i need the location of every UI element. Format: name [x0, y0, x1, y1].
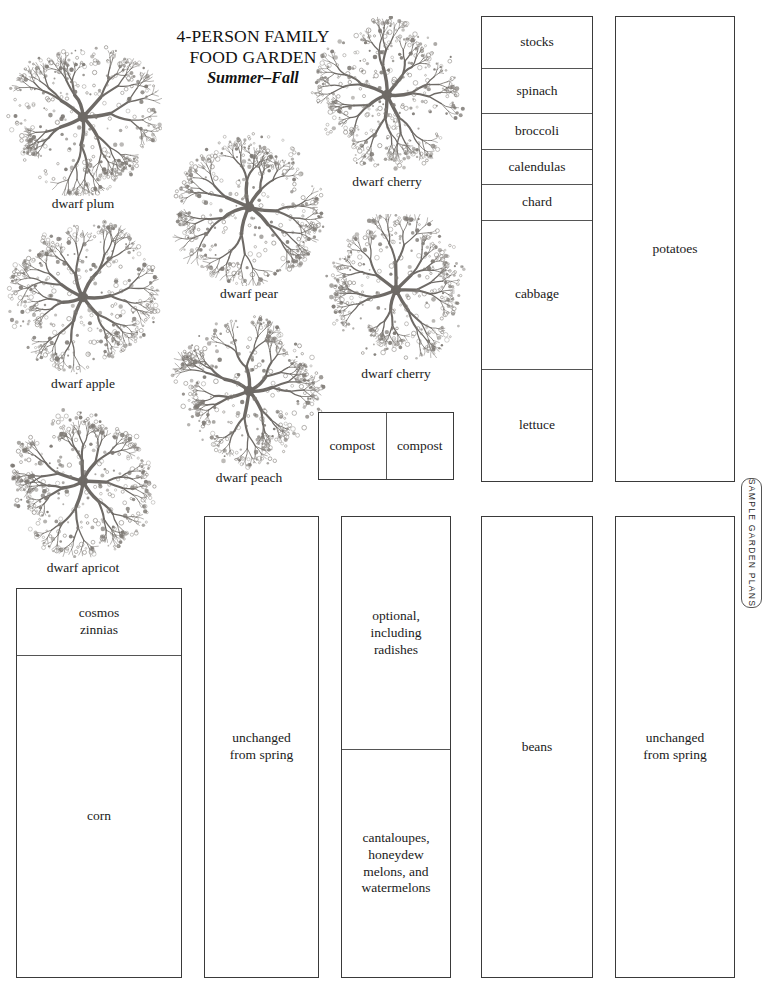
beans-bed: beans	[481, 516, 593, 978]
section-tab-label: SAMPLE GARDEN PLANS	[747, 479, 757, 607]
tree-label: dwarf pear	[170, 286, 328, 302]
bed-section: broccoli	[482, 114, 592, 149]
bed-section-label: lettuce	[519, 417, 555, 434]
bed-section-label: potatoes	[653, 241, 698, 258]
bed-section-label: spinach	[516, 83, 557, 100]
tree-canopy-icon	[4, 218, 162, 376]
tree-label: dwarf apple	[4, 376, 162, 392]
bed-section-label: unchanged from spring	[643, 730, 706, 763]
tree-label: dwarf peach	[170, 470, 328, 486]
bed-section: lettuce	[482, 370, 592, 481]
tree-canopy-icon	[170, 312, 328, 470]
tree-label: dwarf cherry	[308, 174, 466, 190]
bed-section-label: compost	[397, 438, 443, 455]
bed-section-label: beans	[522, 739, 553, 756]
bed-section-label: broccoli	[515, 123, 559, 140]
bed-section-label: corn	[87, 808, 111, 825]
unchanged-spring-bed-left: unchanged from spring	[204, 516, 319, 978]
north-vegetable-bed: stocksspinachbroccolicalendulaschardcabb…	[481, 16, 593, 482]
radishes-and-melons-bed: optional, including radishescantaloupes,…	[341, 516, 451, 978]
bed-section: compost	[319, 413, 387, 479]
bed-section: compost	[387, 413, 454, 479]
bed-section: unchanged from spring	[616, 517, 734, 977]
bed-section: potatoes	[616, 17, 734, 481]
bed-section: stocks	[482, 17, 592, 69]
bed-section-label: cantaloupes, honeydew melons, and waterm…	[362, 830, 431, 897]
unchanged-spring-bed-right: unchanged from spring	[615, 516, 735, 978]
bed-section: corn	[17, 656, 181, 978]
bed-section-label: chard	[522, 194, 552, 211]
bed-section-label: stocks	[520, 34, 554, 51]
tree-label: dwarf apricot	[4, 560, 162, 576]
tree-illustration: dwarf cherry	[308, 16, 466, 174]
potatoes-bed: potatoes	[615, 16, 735, 482]
tree-canopy-icon	[308, 16, 466, 174]
tree-canopy-icon	[320, 214, 472, 366]
tree-illustration: dwarf peach	[170, 312, 328, 470]
bed-section: optional, including radishes	[342, 517, 450, 750]
bed-section-label: cabbage	[515, 286, 559, 303]
bed-section-label: unchanged from spring	[230, 730, 293, 763]
tree-label: dwarf plum	[4, 196, 162, 212]
tree-illustration: dwarf apricot	[4, 402, 162, 560]
tree-canopy-icon	[4, 38, 162, 196]
tree-illustration: dwarf apple	[4, 218, 162, 376]
bed-section: calendulas	[482, 150, 592, 185]
bed-section: spinach	[482, 69, 592, 114]
bed-section-label: calendulas	[509, 159, 566, 176]
bed-section: cosmos zinnias	[17, 589, 181, 656]
tree-illustration: dwarf plum	[4, 38, 162, 196]
tree-canopy-icon	[4, 402, 162, 560]
tree-illustration: dwarf pear	[170, 128, 328, 286]
tree-canopy-icon	[170, 128, 328, 286]
compost-bins: compostcompost	[318, 412, 454, 480]
bed-section: cabbage	[482, 221, 592, 370]
section-tab: SAMPLE GARDEN PLANS	[741, 478, 762, 608]
tree-illustration: dwarf cherry	[320, 214, 472, 366]
flowers-and-corn-bed: cosmos zinniascorn	[16, 588, 182, 978]
garden-plan-page: 4-PERSON FAMILY FOOD GARDEN Summer–Fall …	[0, 0, 772, 993]
bed-section-label: cosmos zinnias	[79, 605, 120, 638]
bed-section: chard	[482, 185, 592, 220]
bed-section: beans	[482, 517, 592, 977]
bed-section: cantaloupes, honeydew melons, and waterm…	[342, 750, 450, 977]
bed-section-label: compost	[329, 438, 375, 455]
tree-label: dwarf cherry	[320, 366, 472, 382]
bed-section: unchanged from spring	[205, 517, 318, 977]
bed-section-label: optional, including radishes	[371, 608, 422, 658]
